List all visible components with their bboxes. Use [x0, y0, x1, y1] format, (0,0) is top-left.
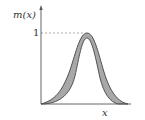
y-axis-arrow-icon — [39, 5, 42, 10]
y-axis-label: m(x) — [13, 10, 36, 20]
x-axis-label: x — [102, 108, 108, 118]
uncertainty-band — [41, 33, 128, 104]
membership-function-diagram: m(x) 1 x — [0, 0, 145, 120]
y-tick-one: 1 — [33, 28, 39, 38]
